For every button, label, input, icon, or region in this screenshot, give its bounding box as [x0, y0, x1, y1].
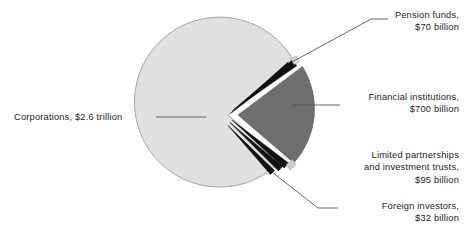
pie-label-limited-partnerships-line3: $95 billion [364, 174, 459, 186]
pie-label-pension-funds-line1: Pension funds, [395, 9, 459, 21]
leader-line-foreign-investors [272, 172, 338, 208]
pie-label-limited-partnerships-line2: and investment trusts, [364, 161, 459, 173]
pie-label-financial-institutions: Financial institutions, $700 billion [368, 91, 459, 116]
pie-label-foreign-investors: Foreign investors, $32 billion [382, 200, 459, 225]
pie-label-foreign-investors-line1: Foreign investors, [382, 200, 459, 212]
pie-label-corporations-line1: Corporations, $2.6 trillion [14, 111, 122, 123]
pie-label-limited-partnerships: Limited partnerships and investment trus… [364, 149, 459, 186]
pie-label-financial-institutions-line1: Financial institutions, [368, 91, 459, 103]
pie-label-corporations: Corporations, $2.6 trillion [14, 111, 122, 123]
pie-label-foreign-investors-line2: $32 billion [382, 212, 459, 224]
leader-line-pension-funds [292, 19, 388, 62]
pie-chart-figure: Corporations, $2.6 trillion Pension fund… [0, 0, 465, 236]
pie-label-pension-funds-line2: $70 billion [395, 21, 459, 33]
pie-label-pension-funds: Pension funds, $70 billion [395, 9, 459, 34]
pie-label-limited-partnerships-line1: Limited partnerships [364, 149, 459, 161]
pie-label-financial-institutions-line2: $700 billion [368, 103, 459, 115]
